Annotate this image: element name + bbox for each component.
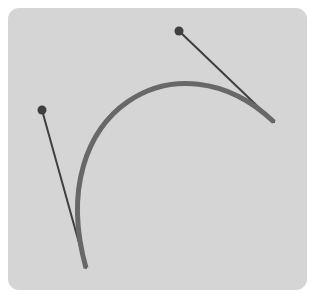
bezier-diagram	[0, 0, 313, 298]
bezier-curve[interactable]	[78, 84, 274, 268]
control-point-1-handle[interactable]	[38, 106, 47, 115]
control-point-2-handle[interactable]	[175, 27, 184, 36]
